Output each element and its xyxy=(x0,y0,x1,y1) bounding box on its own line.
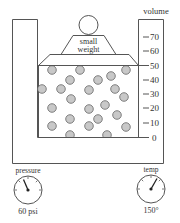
molecule xyxy=(122,123,131,132)
molecule xyxy=(120,93,129,102)
molecule xyxy=(94,115,103,124)
molecule xyxy=(85,122,94,131)
tick-label-60: 60 xyxy=(150,46,160,56)
weight-label-line2: weight xyxy=(78,45,101,54)
tick-label-30: 30 xyxy=(150,89,160,99)
molecule xyxy=(48,66,57,75)
molecule xyxy=(67,95,76,104)
gas-piston-diagram: small weight volume 70 60 50 40 30 20 10… xyxy=(0,0,180,223)
pressure-gauge-label: pressure xyxy=(16,166,42,175)
tick-label-50: 50 xyxy=(150,61,160,71)
gas-molecules xyxy=(38,66,131,140)
tick-label-70: 70 xyxy=(150,32,160,42)
weight-ball xyxy=(79,16,98,35)
pressure-gauge-value: 60 psi xyxy=(18,207,38,216)
volume-scale-title: volume xyxy=(143,6,169,16)
volume-scale-labels: 70 60 50 40 30 20 10 0 xyxy=(150,32,160,143)
molecule xyxy=(94,76,103,85)
pressure-gauge: pressure 60 psi xyxy=(14,166,42,216)
temp-gauge-value: 150° xyxy=(143,206,158,215)
piston-plate xyxy=(39,55,139,66)
tick-label-40: 40 xyxy=(150,75,160,85)
tick-label-0: 0 xyxy=(152,133,157,143)
molecule xyxy=(101,101,110,110)
molecule xyxy=(122,66,131,75)
temp-gauge: temp 150° xyxy=(137,165,165,215)
tick-label-10: 10 xyxy=(150,118,160,128)
molecule xyxy=(66,115,75,124)
molecule xyxy=(85,86,94,95)
molecule xyxy=(57,85,66,94)
temp-gauge-label: temp xyxy=(144,165,159,174)
molecule xyxy=(48,122,57,131)
volume-scale-ticks xyxy=(138,37,149,138)
molecule xyxy=(85,105,94,114)
tick-label-20: 20 xyxy=(150,103,160,113)
molecule xyxy=(48,104,57,113)
molecule xyxy=(113,111,122,120)
molecule xyxy=(111,85,120,94)
molecule xyxy=(66,76,75,85)
molecule xyxy=(76,66,85,75)
molecule xyxy=(38,85,47,94)
molecule xyxy=(107,72,116,81)
